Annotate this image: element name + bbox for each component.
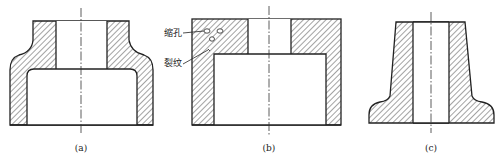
panel-c-caption: (c) — [425, 143, 437, 153]
casting-diagram: (a) 缩孔 裂纹 (b) (c) — [0, 0, 504, 165]
panel-b-caption: (b) — [263, 143, 276, 153]
shrinkage-pore — [210, 37, 215, 41]
panel-a-cavity — [27, 69, 137, 125]
panel-b: 缩孔 裂纹 (b) — [164, 6, 341, 153]
panel-a-bore — [56, 21, 107, 69]
panel-a: (a) — [10, 8, 153, 153]
panel-b-bore — [248, 19, 291, 54]
panel-b-cavity — [214, 54, 326, 125]
panel-c: (c) — [369, 12, 494, 153]
shrinkage-pore — [204, 29, 210, 33]
panel-a-caption: (a) — [75, 143, 87, 153]
shrinkage-hole-label: 缩孔 — [164, 27, 182, 38]
shrinkage-pore — [217, 29, 223, 33]
crack-label: 裂纹 — [164, 57, 182, 68]
